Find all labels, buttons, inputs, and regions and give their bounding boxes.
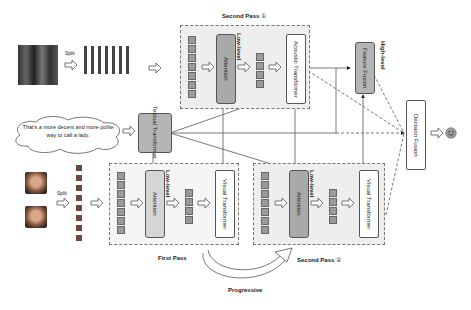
high-level-label: High-level (380, 40, 386, 70)
audio-split-label: Split (65, 50, 75, 56)
arrow-right-icon (268, 62, 282, 72)
arrow-right-icon (166, 198, 180, 208)
arrow-right-icon (130, 198, 144, 208)
first-pass-title: First Pass (158, 255, 187, 261)
arrow-right-icon (310, 198, 324, 208)
face-image-1 (25, 172, 47, 194)
arrow-right-icon (90, 198, 104, 208)
arrow-right-icon (430, 128, 444, 138)
attention-box: Attention (145, 170, 165, 238)
progressive-label: Progressive (228, 287, 262, 293)
second-pass-2-title: Second Pass ② (297, 256, 341, 263)
arrow-right-icon (64, 60, 78, 70)
face-image-2 (25, 206, 47, 228)
textual-transformer-box: Textual Transformer (138, 113, 172, 153)
attention-box: Attention (289, 170, 309, 238)
second-pass-2-box: Attention Low-level Visual Transformer (253, 163, 385, 245)
acoustic-transformer-box: Acoustic Transformer (286, 34, 306, 104)
spectrogram-image (18, 45, 58, 85)
attention-box: Attention (216, 34, 236, 104)
arrow-right-icon (122, 126, 136, 136)
decision-fusion-box: Decision Fusion (406, 100, 426, 170)
visual-transformer-box: Visual Transformer (359, 170, 379, 238)
second-pass-1-title: Second Pass ① (222, 12, 266, 19)
low-level-label: Low-level (309, 169, 315, 199)
feature-fusion-box: Feature Fusion (355, 42, 375, 94)
utterance-text: That's a more decent and more polite way… (22, 123, 114, 139)
low-level-label: Low-level (165, 169, 171, 199)
visual-transformer-box: Visual Transformer (215, 170, 235, 238)
arrow-right-icon (197, 198, 211, 208)
arrow-right-icon (148, 63, 162, 73)
visual-split-label: Split (57, 190, 67, 196)
arrow-right-icon (237, 62, 251, 72)
arrow-right-icon (341, 198, 355, 208)
arrow-right-icon (274, 198, 288, 208)
low-level-label: Low-level (236, 32, 242, 62)
smiley-face-icon (445, 127, 457, 139)
first-pass-box: Attention Low-level Visual Transformer (109, 163, 239, 245)
second-pass-1-box: Attention Low-level Acoustic Transformer (180, 25, 310, 109)
arrow-right-icon (201, 62, 215, 72)
arrow-right-icon (56, 198, 70, 208)
